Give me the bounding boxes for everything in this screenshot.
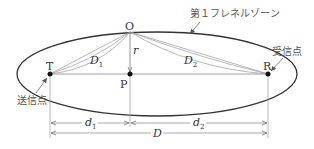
- label-t: T: [46, 60, 54, 73]
- label-d2-segment: D2: [183, 54, 197, 69]
- label-fresnel-zone: 第１フレネルゾーン: [190, 7, 280, 19]
- point-p: [128, 72, 133, 77]
- label-r-radius: r: [133, 44, 139, 57]
- label-total-distance: D: [152, 127, 162, 140]
- label-d1-segment: D1: [89, 54, 103, 69]
- label-r: R: [263, 60, 272, 73]
- label-p: P: [120, 78, 128, 91]
- label-o: O: [125, 20, 134, 33]
- label-transmitter: 送信点: [17, 94, 47, 106]
- leader-receiver: [271, 58, 283, 71]
- leader-fresnel: [190, 22, 200, 34]
- leader-transmitter: [36, 78, 47, 93]
- label-receiver: 受信点: [272, 46, 302, 57]
- fresnel-zone-diagram: O T P R D1 D2 r d1 d2 D 第１フレネルゾーン 受信点 送信…: [0, 0, 314, 149]
